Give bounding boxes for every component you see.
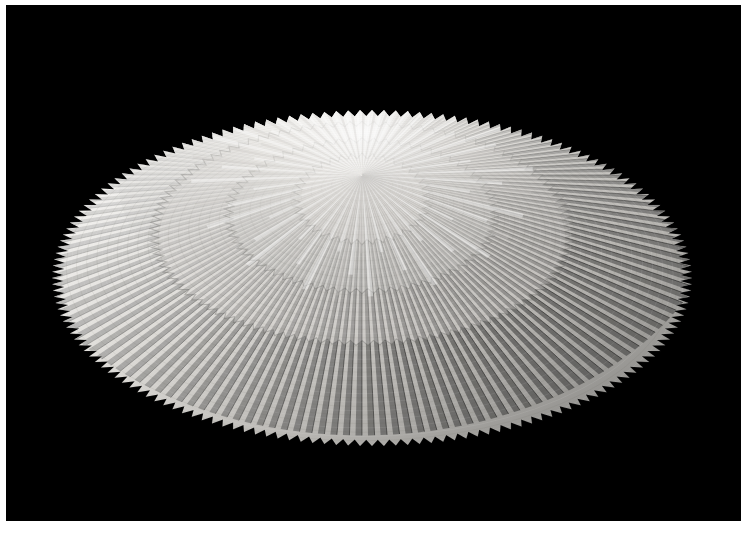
photo-backdrop — [6, 5, 741, 521]
pleated-paper-rosette — [6, 5, 741, 521]
sculpture-artwork — [6, 5, 741, 521]
photo-frame — [0, 0, 748, 535]
disc-body — [6, 5, 741, 521]
